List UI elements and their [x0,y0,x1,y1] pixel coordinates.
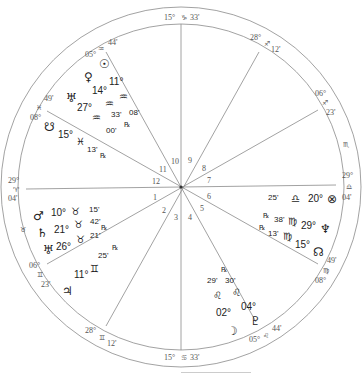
asc-sign-aries: ♈ [13,186,19,194]
pluto-degree: 04° [241,301,256,312]
moon-degree: 02° [216,307,231,318]
venus-glyph-icon: ♀ [84,70,93,84]
uranus-taurus-retrograde-icon: ℞ [101,224,107,232]
fortune-sign-libra: ♎ [291,193,300,204]
bottom-divider [181,372,251,373]
north-node-degree: 15° [295,239,310,250]
dsc-sign-libra: ♎ [346,183,352,191]
uranus-taurus-degree: 26° [56,241,71,252]
saturn-minutes: 42' [90,217,101,226]
mc-sign-capricorn: ♑ [181,14,187,22]
north-node-sign-virgo: ♍ [283,231,292,242]
moon-glyph-icon: ☽ [227,324,238,338]
mars-sign-taurus: ♉ [71,206,80,217]
dsc-degree: 29° [342,171,353,180]
cusp6-minutes: 49' [327,256,337,265]
pluto-sign-leo: ♌ [232,287,241,298]
sun-degree: 11° [109,76,123,87]
sun-sign-aquarius: ♒ [119,91,128,102]
cusp3-degree: 28° [85,326,96,335]
intercepted-sign-taurus: ♉ [20,226,26,234]
mars-degree: 10° [51,207,66,218]
cusp2-minutes: 23' [41,280,51,289]
neptune-minutes: 38' [274,215,285,224]
planet-group-libra-virgo: 25' ♎ 20° ⊗ ℞ 38' ♍ 29° ♆ ℞ 13' ♍ 15° ☊ [259,192,337,259]
neptune-sign-virgo: ♍ [288,216,297,227]
south-node-glyph-icon: ☋ [44,120,55,134]
uranus-taurus-minutes: 21' [90,231,101,240]
cusp9-sign-sagittarius: ♐ [264,40,270,48]
saturn-degree: 21° [54,224,69,235]
cusp6-degree: 08° [315,276,326,285]
part-of-fortune-glyph-icon: ⊗ [327,192,337,206]
saturn-glyph-icon: ♄ [37,226,48,240]
uranus-taurus-glyph-icon: ♅ [43,243,54,257]
house-number-6: 6 [207,192,211,201]
planet-group-aquarius: ☉ 11° ♒ 08' ♀ 14° ♒ 33' ♅ 27° ♒ 00' ℞ ☋ … [44,57,140,160]
cusp11-sign-aquarius: ♒ [98,45,104,53]
north-node-retrograde-icon: ℞ [259,224,265,232]
north-node-glyph-icon: ☊ [313,245,324,259]
cusp8-minutes: 23' [326,108,336,117]
mars-glyph-icon: ♂ [33,209,44,223]
house-number-3: 3 [174,213,178,222]
uranus-sign-aquarius: ♒ [92,112,101,123]
fortune-degree: 20° [308,193,323,204]
pluto-retrograde-icon: ℞ [221,266,227,274]
mc-minutes: 33' [190,13,200,22]
planet-group-leo: ℞ 30' ♌ 04° ♇ 29' ♌ 02° ☽ [207,266,261,338]
cusp6-sign-virgo: ♍ [323,267,329,275]
uranus-glyph-icon: ♅ [66,91,77,105]
house-number-4: 4 [188,213,192,222]
fortune-minutes: 25' [268,193,279,202]
cusp9-minutes: 12' [271,45,281,54]
south-node-sign-pisces: ♓ [76,136,85,147]
venus-minutes: 33' [111,110,122,119]
sun-minutes: 08' [129,108,140,117]
cusp8-degree: 06° [315,89,326,98]
jupiter-glyph-icon: ♃ [62,284,73,298]
cusp12-sign-pisces: ♓ [36,104,42,112]
intercepted-sign-scorpio: ♏ [343,141,350,149]
neptune-degree: 29° [301,220,316,231]
moon-minutes: 29' [207,276,218,285]
south-node-retrograde-icon: ℞ [100,152,106,160]
neptune-glyph-icon: ♆ [320,222,331,236]
south-node-minutes: 13' [87,145,98,154]
cusp12-degree: 08° [30,113,41,122]
jupiter-sign-gemini: ♊ [90,263,99,274]
house-numbers: 1 2 3 4 5 6 7 8 9 10 11 12 [152,156,211,222]
house-cusps [26,24,336,350]
jupiter-minutes: 25' [98,251,109,260]
moon-sign-leo: ♌ [213,290,222,301]
chart-center-dot [179,185,182,188]
house-number-7: 7 [207,176,211,185]
saturn-sign-taurus: ♉ [74,219,83,230]
house-number-1: 1 [153,193,157,202]
uranus-taurus-sign-taurus: ♉ [76,234,85,245]
south-node-degree: 15° [58,129,73,140]
house-number-10: 10 [171,157,179,166]
uranus-retrograde-icon: ℞ [124,121,130,129]
cusp5-sign-leo: ♌ [263,332,269,340]
pluto-minutes: 30' [225,276,236,285]
cusp11-minutes: 44' [108,38,118,47]
venus-degree: 14° [92,85,107,96]
cusp8-sign-sagittarius: ♐ [322,99,328,107]
sun-glyph-icon: ☉ [99,57,110,71]
mars-minutes: 15' [89,205,100,214]
natal-chart-wheel: 1 2 3 4 5 6 7 8 9 10 11 12 15° ♑ 33' 15°… [0,0,362,375]
cusp2-degree: 06° [29,261,40,270]
venus-sign-aquarius: ♒ [105,98,114,109]
ic-sign-cancer: ♋ [181,354,187,362]
asc-degree: 29° [8,176,19,185]
cusp2-sign-gemini: ♊ [37,271,43,279]
asc-minutes: 04' [8,194,18,203]
house-number-5: 5 [200,204,204,213]
jupiter-retrograde-icon: ℞ [112,244,118,252]
house-number-2: 2 [162,206,166,215]
mc-degree: 15° [164,13,175,22]
house-number-12: 12 [152,177,160,186]
cusp9-degree: 28° [250,33,261,42]
north-node-minutes: 13' [268,229,279,238]
